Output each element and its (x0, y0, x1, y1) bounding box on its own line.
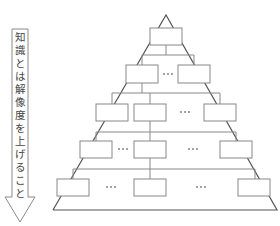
node-l5-3 (238, 179, 270, 196)
node-l3-2 (134, 104, 166, 121)
node-l5-1 (57, 179, 89, 196)
node-l4-3 (220, 141, 252, 158)
node-l3-3 (204, 104, 236, 121)
node-l1-1 (150, 28, 182, 45)
arrow-label: 知識とは解像度を上げること (13, 31, 27, 200)
node-l3-1 (96, 104, 128, 121)
node-l2-1 (126, 65, 158, 83)
node-l5-2 (134, 179, 166, 196)
ellipsis-markers (106, 73, 206, 188)
knowledge-diagram (0, 0, 280, 226)
node-l4-1 (80, 141, 112, 158)
tree-nodes (57, 28, 270, 196)
node-l2-2 (178, 65, 210, 83)
node-l4-2 (134, 141, 166, 158)
